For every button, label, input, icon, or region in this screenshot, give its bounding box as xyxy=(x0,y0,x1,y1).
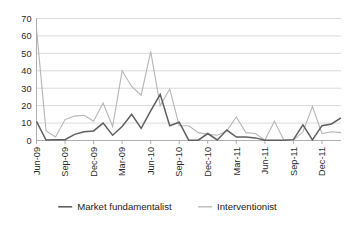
y-tick-label-70: 70 xyxy=(21,14,31,24)
series-line-market-fundamentalist xyxy=(37,94,342,140)
y-tick-label-20: 20 xyxy=(21,101,31,111)
x-tick-label-8: Jun-11 xyxy=(260,147,270,174)
x-tick-label-1: Sep-09 xyxy=(60,147,70,177)
x-tick-label-6: Dec-10 xyxy=(203,147,213,177)
legend-label-0: Market fundamentalist xyxy=(77,201,172,212)
x-tick-label-7: Mar-11 xyxy=(232,147,242,175)
y-tick-label-50: 50 xyxy=(21,49,31,59)
x-axis-tick-labels: Jun-09Sep-09Dec-09Mar-09Jun-10Sep-10Dec-… xyxy=(32,147,327,177)
chart-legend: Market fundamentalistInterventionist xyxy=(58,201,277,212)
x-tick-label-0: Jun-09 xyxy=(32,147,42,175)
x-tick-label-4: Jun-10 xyxy=(146,147,156,175)
y-axis-tick-labels: 010203040506070 xyxy=(21,14,31,146)
x-tick-label-9: Sep-11 xyxy=(289,147,299,176)
legend-label-1: Interventionist xyxy=(217,201,277,212)
y-tick-label-30: 30 xyxy=(21,84,31,94)
y-tick-label-60: 60 xyxy=(21,31,31,41)
x-tick-label-5: Sep-10 xyxy=(174,147,184,177)
x-tick-label-10: Dec-11 xyxy=(317,147,327,176)
series-line-interventionist xyxy=(37,29,342,140)
data-series-group xyxy=(37,29,342,140)
y-tick-label-0: 0 xyxy=(26,136,31,146)
gridlines-group xyxy=(37,19,342,141)
x-tick-label-2: Dec-09 xyxy=(89,147,99,177)
line-chart: 010203040506070 Jun-09Sep-09Dec-09Mar-09… xyxy=(0,0,348,228)
y-tick-label-10: 10 xyxy=(21,118,31,128)
y-tick-label-40: 40 xyxy=(21,66,31,76)
chart-container: 010203040506070 Jun-09Sep-09Dec-09Mar-09… xyxy=(0,0,348,228)
x-axis-tick-marks xyxy=(37,141,322,145)
x-tick-label-3: Mar-09 xyxy=(117,147,127,176)
